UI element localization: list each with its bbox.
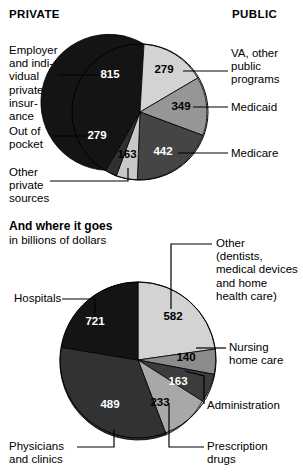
value-physicians: 489 [100, 398, 119, 410]
value-prescription: 233 [150, 396, 169, 408]
value-administration: 163 [168, 375, 187, 387]
value-nursing: 140 [176, 351, 195, 363]
infographic-canvas: PRIVATE PUBLIC Employer and indi- vidual… [0, 0, 303, 473]
value-hospitals: 721 [85, 315, 105, 327]
value-other-dentists: 582 [163, 310, 182, 322]
pie-chart-spending: 582 140 163 233 489 721 [0, 0, 303, 473]
